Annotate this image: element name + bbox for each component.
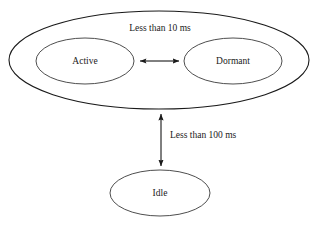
- edge-label-active-dormant: Less than 10 ms: [129, 23, 191, 33]
- node-label-idle: Idle: [153, 188, 168, 198]
- node-label-active: Active: [72, 56, 97, 66]
- node-label-dormant: Dormant: [216, 56, 250, 66]
- edge-label-group-idle: Less than 100 ms: [170, 130, 237, 140]
- diagram-root: Active Dormant Idle Less than 10 ms Less…: [0, 0, 319, 228]
- state-transition-diagram: Active Dormant Idle Less than 10 ms Less…: [0, 0, 319, 228]
